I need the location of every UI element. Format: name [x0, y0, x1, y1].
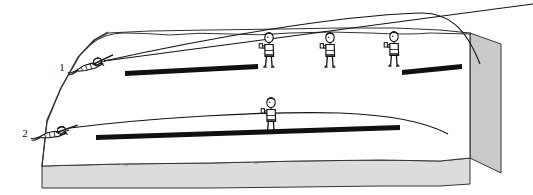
terrain-side-face — [470, 33, 501, 173]
terrain-top-surface — [42, 28, 470, 166]
scenario-label-1: 1 — [59, 61, 65, 73]
scenario-label-2: 2 — [22, 127, 28, 139]
trajectory-diagram-svg: 1 2 — [0, 0, 533, 195]
diagram-canvas: 1 2 — [0, 0, 533, 195]
